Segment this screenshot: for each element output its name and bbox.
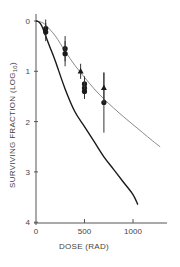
x-ticks: 05001000	[34, 219, 143, 236]
x-tick-label: 0	[34, 227, 39, 236]
x-tick-label: 500	[78, 227, 92, 236]
y-tick-label: 0	[26, 17, 31, 26]
circle-marker	[43, 29, 48, 34]
y-axis-title-main: SURVIVING FRACTION (LOG	[8, 72, 17, 188]
x-axis-title: DOSE (RAD)	[59, 242, 109, 251]
y-axis-title: SURVIVING FRACTION (LOG10)	[8, 62, 18, 188]
triangle-marker	[101, 85, 107, 90]
y-tick-label: 3	[26, 168, 31, 177]
curve-line	[36, 21, 138, 205]
circle-marker	[82, 89, 87, 94]
series-layer	[36, 19, 160, 204]
x-tick-label: 1000	[124, 227, 142, 236]
y-tick-label: 1	[26, 67, 31, 76]
y-tick-label: 2	[26, 118, 31, 127]
y-tick-label: 4	[26, 218, 31, 227]
circle-marker	[63, 51, 68, 56]
curve-line	[36, 21, 160, 147]
y-axis-title-close: )	[8, 62, 17, 65]
survival-chart: 01234 05001000 DOSE (RAD) SURVIVING FRAC…	[0, 0, 180, 267]
axes	[34, 14, 167, 225]
